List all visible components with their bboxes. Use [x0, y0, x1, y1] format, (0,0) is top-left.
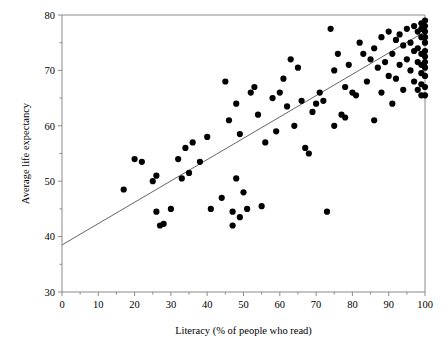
data-point — [400, 87, 406, 93]
data-point — [204, 134, 210, 140]
y-tick-label: 40 — [45, 231, 56, 242]
data-point — [393, 37, 399, 43]
data-point — [240, 189, 246, 195]
data-point — [248, 89, 254, 95]
x-tick-label: 40 — [202, 299, 213, 310]
x-tick-label: 10 — [93, 299, 104, 310]
data-point — [175, 156, 181, 162]
y-tick-label: 50 — [45, 176, 56, 187]
data-point — [153, 173, 159, 179]
data-point — [404, 56, 410, 62]
data-point — [396, 62, 402, 68]
data-point — [161, 221, 167, 227]
x-tick-label: 60 — [275, 299, 286, 310]
data-point — [411, 78, 417, 84]
x-tick-label: 90 — [383, 299, 394, 310]
data-point — [230, 222, 236, 228]
data-point — [233, 175, 239, 181]
data-point — [324, 209, 330, 215]
data-point — [306, 150, 312, 156]
scatter-plot-svg: 0102030405060708090100304050607080Litera… — [0, 0, 446, 354]
data-point — [342, 84, 348, 90]
data-point — [313, 101, 319, 107]
y-tick-label: 60 — [45, 121, 56, 132]
data-point — [262, 139, 268, 145]
data-point — [396, 31, 402, 37]
data-point — [233, 101, 239, 107]
data-point — [422, 65, 428, 71]
data-point — [121, 186, 127, 192]
data-point — [139, 159, 145, 165]
data-point — [422, 17, 428, 23]
x-tick-label: 80 — [347, 299, 358, 310]
data-point — [364, 78, 370, 84]
x-tick-label: 50 — [238, 299, 249, 310]
data-point — [422, 59, 428, 65]
data-point — [367, 56, 373, 62]
data-point — [150, 178, 156, 184]
x-tick-label: 20 — [129, 299, 140, 310]
data-point — [422, 84, 428, 90]
x-axis-title: Literacy (% of people who read) — [175, 325, 312, 337]
data-point — [360, 51, 366, 57]
data-point — [280, 76, 286, 82]
data-point — [422, 73, 428, 79]
data-point — [291, 123, 297, 129]
data-point — [309, 109, 315, 115]
y-tick-label: 30 — [45, 287, 56, 298]
y-axis-title: Average life expectancy — [20, 102, 31, 204]
data-point — [208, 206, 214, 212]
data-point — [411, 23, 417, 29]
data-point — [371, 45, 377, 51]
x-tick-label: 100 — [417, 299, 433, 310]
data-point — [422, 92, 428, 98]
data-point — [317, 89, 323, 95]
data-point — [295, 65, 301, 71]
data-point — [153, 209, 159, 215]
data-point — [353, 92, 359, 98]
data-point — [237, 214, 243, 220]
data-point — [197, 159, 203, 165]
data-point — [371, 117, 377, 123]
data-point — [255, 112, 261, 118]
data-point — [386, 73, 392, 79]
data-point — [190, 139, 196, 145]
data-point — [357, 40, 363, 46]
data-point — [331, 123, 337, 129]
data-point — [378, 89, 384, 95]
data-point — [393, 76, 399, 82]
data-point — [179, 175, 185, 181]
data-point — [186, 170, 192, 176]
data-point — [422, 53, 428, 59]
data-point — [378, 34, 384, 40]
data-point — [346, 62, 352, 68]
x-tick-label: 0 — [59, 299, 64, 310]
data-point — [328, 26, 334, 32]
data-point — [342, 114, 348, 120]
data-point — [244, 206, 250, 212]
data-point — [422, 29, 428, 35]
data-point — [422, 34, 428, 40]
data-point — [389, 51, 395, 57]
data-point — [320, 98, 326, 104]
data-point — [422, 40, 428, 46]
data-point — [284, 103, 290, 109]
y-tick-label: 80 — [45, 10, 56, 21]
data-point — [288, 56, 294, 62]
data-point — [302, 145, 308, 151]
y-tick-label: 70 — [45, 65, 56, 76]
data-point — [415, 87, 421, 93]
data-point — [226, 117, 232, 123]
x-tick-label: 70 — [311, 299, 322, 310]
data-point — [251, 84, 257, 90]
data-point — [219, 195, 225, 201]
data-point — [335, 51, 341, 57]
data-point — [182, 145, 188, 151]
data-point — [415, 45, 421, 51]
regression-line — [62, 32, 425, 245]
data-point — [277, 89, 283, 95]
data-point — [422, 23, 428, 29]
data-point — [237, 131, 243, 137]
data-point — [407, 40, 413, 46]
data-point — [375, 65, 381, 71]
